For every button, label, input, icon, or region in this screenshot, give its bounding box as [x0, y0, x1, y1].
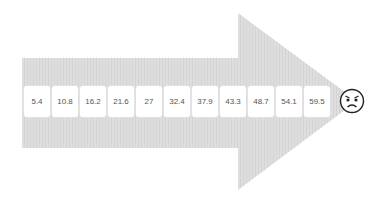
value-box: 48.7	[248, 86, 274, 117]
value-box: 5.4	[24, 86, 50, 117]
value-box-row: 5.4 10.8 16.2 21.6 27 32.4 37.9 43.3 48.…	[24, 86, 330, 117]
value-box: 27	[136, 86, 162, 117]
value-box: 54.1	[276, 86, 302, 117]
angry-face-icon	[339, 88, 365, 114]
value-box: 21.6	[108, 86, 134, 117]
value-box: 37.9	[192, 86, 218, 117]
value-box: 43.3	[220, 86, 246, 117]
value-box: 10.8	[52, 86, 78, 117]
value-box: 16.2	[80, 86, 106, 117]
value-box: 32.4	[164, 86, 190, 117]
value-box: 59.5	[304, 86, 330, 117]
